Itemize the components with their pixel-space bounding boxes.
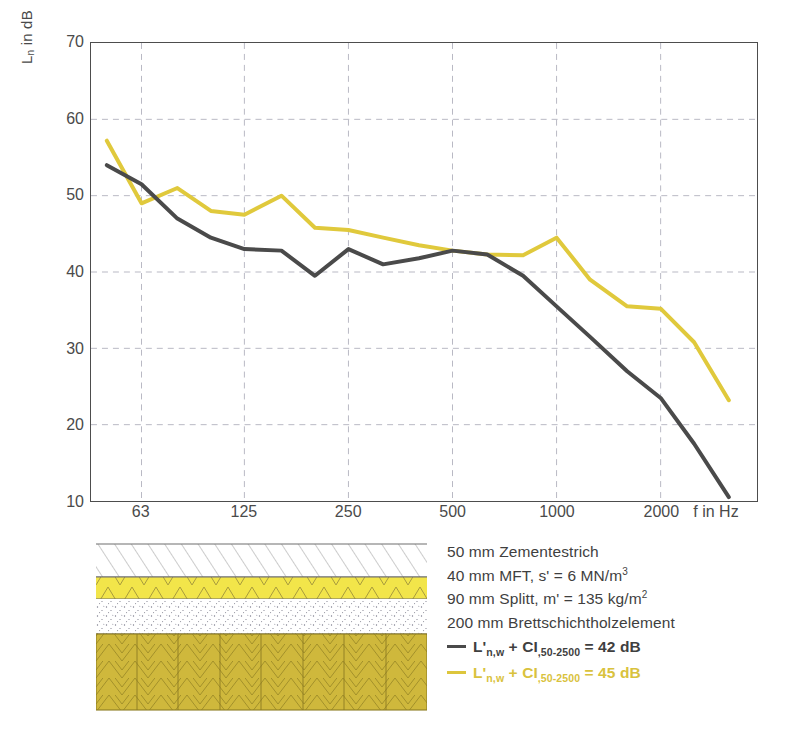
x-axis-tick-1000: 1000 [539, 503, 575, 521]
chart-area: Ln in dB 70605040302010 6312525050010002… [0, 0, 789, 530]
legend-key-dark-line [447, 645, 466, 648]
floor-section-svg [96, 542, 427, 712]
legend-dark-pre: L' [473, 638, 486, 655]
legend-yellow-sub1: n,w [486, 672, 504, 684]
legend-key-yellow-line [447, 671, 466, 674]
legend-item-gravel: 90 mm Splitt, m' = 135 kg/m2 [447, 587, 782, 611]
y-axis-tick-40: 40 [50, 263, 84, 281]
legend-item-rating-dark: L'n,w + CI,50-2500 = 42 dB [447, 635, 782, 661]
series-line [107, 165, 729, 497]
y-axis-tick-60: 60 [50, 110, 84, 128]
plot-canvas [91, 43, 757, 501]
layer-impact-insulation [96, 577, 427, 599]
legend-yellow-post: = 45 dB [580, 664, 641, 681]
legend-gravel-exponent: 2 [642, 589, 648, 600]
layer-screed [96, 544, 427, 577]
x-axis-tick-2000: 2000 [644, 503, 680, 521]
legend: 50 mm Zementestrich 40 mm MFT, s' = 6 MN… [447, 540, 782, 687]
x-axis-tick-250: 250 [335, 503, 362, 521]
legend-item-glulam: 200 mm Brettschichtholzelement [447, 611, 782, 635]
layer-glulam-element [96, 634, 427, 710]
construction-detail-area: 50 mm Zementestrich 40 mm MFT, s' = 6 MN… [0, 530, 789, 747]
legend-glulam-text: 200 mm Brettschichtholzelement [447, 614, 675, 631]
legend-insulation-text: 40 mm MFT, s' = 6 MN/m [447, 567, 622, 584]
x-axis-ticks: 6312525050010002000f in Hz [0, 503, 789, 529]
legend-screed-text: 50 mm Zementestrich [447, 543, 599, 560]
series-line [107, 141, 729, 401]
y-axis-tick-30: 30 [50, 340, 84, 358]
y-axis-ticks: 70605040302010 [28, 0, 84, 530]
legend-dark-post: = 42 dB [580, 638, 641, 655]
legend-yellow-pre: L' [473, 664, 486, 681]
legend-item-insulation: 40 mm MFT, s' = 6 MN/m3 [447, 564, 782, 588]
legend-dark-sub2: ,50-2500 [538, 646, 580, 658]
legend-yellow-mid: + CI [504, 664, 538, 681]
y-axis-tick-20: 20 [50, 416, 84, 434]
plot-frame [90, 42, 758, 502]
layer-gravel-fill [96, 599, 427, 634]
legend-dark-mid: + CI [504, 638, 538, 655]
legend-item-rating-yellow: L'n,w + CI,50-2500 = 45 dB [447, 661, 782, 687]
x-axis-label: f in Hz [693, 503, 738, 521]
x-axis-tick-500: 500 [439, 503, 466, 521]
gridlines [91, 43, 757, 501]
legend-gravel-text: 90 mm Splitt, m' = 135 kg/m [447, 590, 642, 607]
legend-insulation-exponent: 3 [622, 566, 628, 577]
legend-item-screed: 50 mm Zementestrich [447, 540, 782, 564]
x-axis-tick-125: 125 [230, 503, 257, 521]
legend-dark-sub1: n,w [486, 646, 504, 658]
x-axis-tick-63: 63 [132, 503, 150, 521]
y-axis-tick-70: 70 [50, 33, 84, 51]
data-series [107, 141, 729, 497]
floor-section-drawing [96, 542, 427, 712]
legend-yellow-sub2: ,50-2500 [538, 672, 580, 684]
y-axis-tick-50: 50 [50, 186, 84, 204]
